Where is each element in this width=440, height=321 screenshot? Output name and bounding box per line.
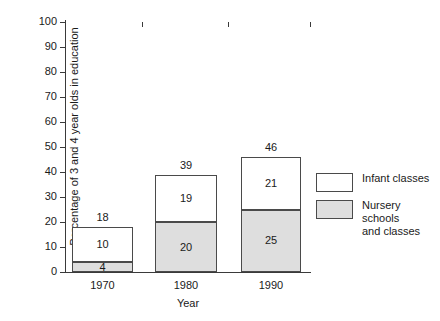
bar-total-label-1990: 46 (241, 141, 301, 154)
chart-container: Percentage of 3 and 4 year olds in educa… (0, 0, 440, 321)
y-tick-label-60: 60 (45, 115, 57, 128)
bar-segment-nursery-1970[interactable]: 4 (72, 262, 133, 272)
bar-1970[interactable]: 18 10 4 (72, 227, 133, 272)
y-tick-label-80: 80 (45, 65, 57, 78)
bar-segment-infant-1970[interactable]: 10 (72, 227, 133, 262)
y-tick-label-30: 30 (45, 190, 57, 203)
x-tick-2 (228, 22, 229, 27)
y-tick-label-0: 0 (51, 265, 57, 278)
bar-segment-infant-1980[interactable]: 19 (155, 175, 217, 223)
bar-segment-infant-1990[interactable]: 21 (241, 157, 301, 210)
y-tick-label-10: 10 (45, 240, 57, 253)
bar-total-label-1970: 18 (72, 211, 133, 224)
legend: Infant classes Nursery schools and class… (316, 172, 440, 245)
x-tick-label-1990: 1990 (241, 279, 301, 292)
x-tick-label-1980: 1980 (155, 279, 217, 292)
legend-swatch-nursery-schools (316, 200, 353, 219)
legend-item-nursery-schools[interactable]: Nursery schools and classes (316, 199, 440, 238)
y-tick-label-90: 90 (45, 40, 57, 53)
x-axis-title: Year (65, 297, 311, 310)
y-tick-label-40: 40 (45, 165, 57, 178)
bar-total-label-1980: 39 (155, 159, 217, 172)
x-tick-label-1970: 1970 (72, 279, 133, 292)
y-tick-label-50: 50 (45, 140, 57, 153)
legend-swatch-infant-classes (316, 173, 353, 192)
y-tick-label-20: 20 (45, 215, 57, 228)
y-tick-label-100: 100 (39, 15, 57, 28)
legend-label-nursery-schools: Nursery schools and classes (362, 199, 440, 238)
bar-segment-label-infant-1970: 10 (96, 238, 108, 251)
y-tick-label-70: 70 (45, 90, 57, 103)
legend-item-infant-classes[interactable]: Infant classes (316, 172, 440, 192)
bar-segment-label-nursery-1970: 4 (99, 261, 105, 274)
legend-label-infant-classes: Infant classes (362, 172, 429, 185)
bar-segment-label-infant-1990: 21 (265, 177, 277, 190)
bar-1990[interactable]: 46 21 25 (241, 157, 301, 272)
bar-segment-label-nursery-1980: 20 (180, 241, 192, 254)
bar-1980[interactable]: 39 19 20 (155, 175, 217, 273)
x-tick-1 (142, 22, 143, 27)
plot-area: Percentage of 3 and 4 year olds in educa… (65, 22, 310, 272)
bar-segment-label-nursery-1990: 25 (265, 234, 277, 247)
x-tick-3 (310, 22, 311, 27)
bar-segment-label-infant-1980: 19 (180, 192, 192, 205)
bar-segment-nursery-1980[interactable]: 20 (155, 222, 217, 272)
x-tick-0 (65, 22, 66, 27)
bar-segment-nursery-1990[interactable]: 25 (241, 210, 301, 273)
